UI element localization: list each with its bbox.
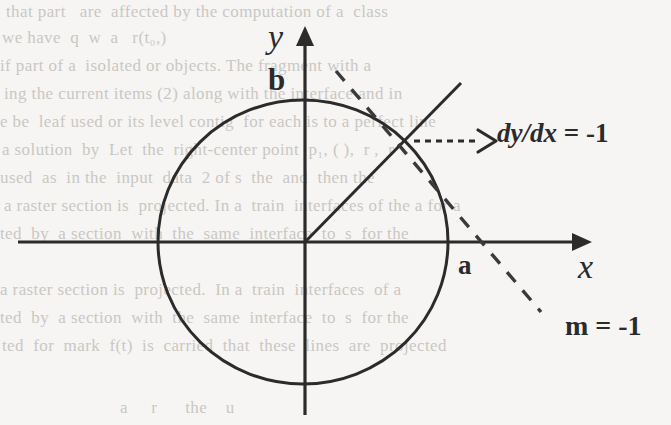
circle-tangent-figure — [0, 0, 671, 425]
derivative-annotation: dy/dx = -1 — [497, 118, 608, 149]
figure-page: that part are affected by the computatio… — [0, 0, 671, 425]
x-intercept-label-a: a — [458, 250, 472, 281]
y-axis-arrowhead-icon — [296, 26, 314, 46]
y-axis-label: y — [268, 18, 283, 56]
derivative-equals-sign: = — [557, 118, 586, 148]
y-axis — [296, 26, 314, 415]
derivative-expression: dy/dx — [497, 118, 557, 148]
derivative-callout-arrow — [414, 130, 496, 152]
derivative-value: -1 — [586, 118, 609, 148]
radius-line — [305, 83, 461, 242]
callout-arrowhead-icon — [478, 130, 496, 152]
slope-annotation: m = -1 — [565, 310, 642, 342]
x-axis-label: x — [578, 248, 593, 286]
y-intercept-label-b: b — [268, 62, 285, 98]
